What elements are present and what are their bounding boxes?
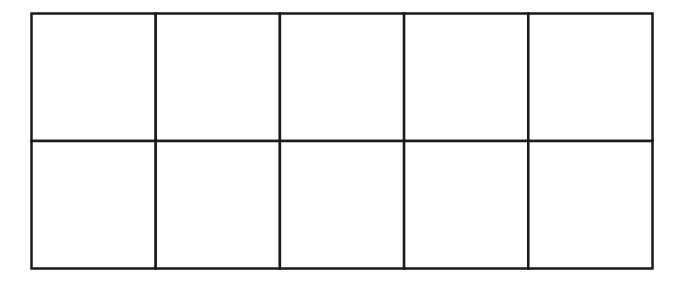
grid-cell-r0-c2: [280, 14, 404, 142]
grid-cell-r1-c4: [528, 141, 652, 269]
ten-frame-grid: [30, 12, 654, 270]
grid-cell-r0-c4: [528, 14, 652, 142]
grid-cell-r1-c2: [280, 141, 404, 269]
grid-cell-r1-c0: [32, 141, 156, 269]
grid-cell-r0-c3: [404, 14, 528, 142]
grid-cell-r0-c1: [156, 14, 280, 142]
grid-cell-r1-c1: [156, 141, 280, 269]
grid-cell-r1-c3: [404, 141, 528, 269]
grid-cell-r0-c0: [32, 14, 156, 142]
grid-drawing: [30, 12, 654, 270]
